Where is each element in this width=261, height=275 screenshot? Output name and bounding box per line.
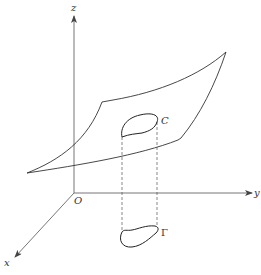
surface <box>27 52 226 173</box>
curve-gamma-label: Γ <box>161 227 168 238</box>
surface-boundary <box>27 52 226 173</box>
space-curve-C: C <box>122 114 169 137</box>
x-axis <box>15 193 74 257</box>
projection-lines <box>122 122 157 232</box>
curve-C <box>122 114 158 137</box>
y-axis-label: y <box>253 187 260 198</box>
x-axis-label: x <box>4 257 10 268</box>
projected-curve-gamma: Γ <box>120 226 168 247</box>
curve-C-label: C <box>161 115 169 126</box>
surface-projection-diagram: z y x O C Γ <box>0 0 261 275</box>
origin-label: O <box>74 195 82 206</box>
z-axis-label: z <box>70 2 77 13</box>
curve-gamma <box>120 226 158 247</box>
axes: z y x O <box>4 2 260 268</box>
